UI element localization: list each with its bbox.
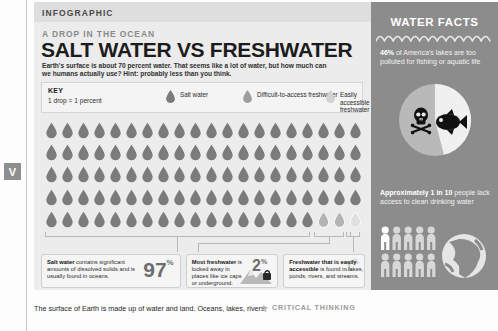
droplet-salt-water bbox=[187, 186, 203, 208]
droplet-salt-water bbox=[299, 209, 315, 231]
droplet-salt-water bbox=[59, 186, 75, 208]
droplet-salt-water bbox=[155, 142, 171, 164]
person-icon bbox=[427, 226, 435, 250]
droplet-salt-water bbox=[91, 186, 107, 208]
droplet-salt-water bbox=[75, 119, 91, 141]
droplet-icon bbox=[242, 89, 253, 104]
key-subtitle: 1 drop = 1 percent bbox=[48, 97, 102, 104]
droplet-salt-water bbox=[43, 186, 59, 208]
critical-thinking-text: CRITICAL THINKING bbox=[272, 303, 356, 312]
droplet-salt-water bbox=[123, 209, 139, 231]
key-entry-label: Salt water bbox=[180, 89, 208, 99]
wave-divider-icon bbox=[376, 32, 493, 42]
droplet-salt-water bbox=[331, 142, 347, 164]
key-entry-label: Easily accessible freshwater bbox=[340, 89, 369, 114]
infographic-label: INFOGRAPHIC bbox=[42, 8, 114, 18]
droplet-salt-water bbox=[139, 142, 155, 164]
key-legend: KEY 1 drop = 1 percent Salt waterDifficu… bbox=[41, 82, 363, 113]
person-icon bbox=[404, 253, 412, 277]
droplet-salt-water bbox=[123, 119, 139, 141]
droplet-salt-water bbox=[235, 209, 251, 231]
stat-easy-freshwater: Freshwater that is easily accessible is … bbox=[283, 254, 365, 288]
droplet-salt-water bbox=[331, 164, 347, 186]
droplet-salt-water bbox=[267, 119, 283, 141]
key-entry-salt-water: Salt water bbox=[165, 89, 208, 104]
stat-value: 97% bbox=[143, 259, 173, 280]
infographic-panel: INFOGRAPHIC A DROP IN THE OCEAN SALT WAT… bbox=[34, 2, 498, 290]
stat-bold-lead: Salt water bbox=[47, 259, 74, 265]
droplet-salt-water bbox=[107, 209, 123, 231]
fact-pollution-rest: of America's lakes are too polluted for … bbox=[380, 49, 480, 65]
droplet-salt-water bbox=[139, 119, 155, 141]
droplet-salt-water bbox=[91, 209, 107, 231]
droplet-salt-water bbox=[171, 142, 187, 164]
droplet-salt-water bbox=[187, 209, 203, 231]
droplet-salt-water bbox=[75, 164, 91, 186]
droplet-salt-water bbox=[59, 142, 75, 164]
fact-pollution-value: 46% bbox=[380, 49, 394, 56]
droplet-salt-water bbox=[187, 119, 203, 141]
infographic-page: V INFOGRAPHIC A DROP IN THE OCEAN SALT W… bbox=[0, 0, 498, 331]
droplet-salt-water bbox=[347, 186, 363, 208]
droplet-easy-freshwater bbox=[347, 209, 363, 231]
droplet-salt-water bbox=[171, 119, 187, 141]
person-icon bbox=[427, 253, 435, 277]
droplet-salt-water bbox=[75, 142, 91, 164]
droplet-salt-water bbox=[315, 142, 331, 164]
droplet-salt-water bbox=[203, 209, 219, 231]
droplet-icon bbox=[325, 89, 336, 104]
person-icon bbox=[393, 253, 401, 277]
stat-boxes: Salt water contains significant amounts … bbox=[41, 254, 365, 288]
droplet-salt-water bbox=[107, 142, 123, 164]
droplet-salt-water bbox=[347, 119, 363, 141]
droplet-salt-water bbox=[139, 164, 155, 186]
droplet-salt-water bbox=[315, 164, 331, 186]
droplet-salt-water bbox=[331, 186, 347, 208]
stat-unit: % bbox=[167, 258, 174, 267]
droplet-salt-water bbox=[203, 142, 219, 164]
stat-description: Freshwater that is easily accessible is … bbox=[289, 259, 365, 280]
droplet-salt-water bbox=[171, 164, 187, 186]
page-rule bbox=[26, 0, 27, 331]
droplet-salt-water bbox=[251, 119, 267, 141]
droplet-row bbox=[43, 186, 363, 208]
droplet-salt-water bbox=[75, 186, 91, 208]
droplet-salt-water bbox=[91, 164, 107, 186]
droplet-salt-water bbox=[203, 164, 219, 186]
droplet-salt-water bbox=[283, 142, 299, 164]
globe-icon bbox=[442, 234, 486, 278]
droplet-row bbox=[43, 141, 363, 163]
droplet-salt-water bbox=[91, 142, 107, 164]
droplet-salt-water bbox=[59, 164, 75, 186]
droplet-salt-water bbox=[75, 209, 91, 231]
droplet-salt-water bbox=[315, 119, 331, 141]
key-entry-easy-freshwater: Easily accessible freshwater bbox=[325, 89, 369, 114]
droplet-salt-water bbox=[123, 164, 139, 186]
droplet-salt-water bbox=[171, 186, 187, 208]
droplet-salt-water bbox=[139, 186, 155, 208]
droplet-salt-water bbox=[235, 164, 251, 186]
droplet-salt-water bbox=[91, 119, 107, 141]
stat-unit: % bbox=[261, 258, 267, 265]
droplet-salt-water bbox=[315, 186, 331, 208]
fact-access-text: Approximately 1 in 10 people lack access… bbox=[380, 188, 492, 207]
droplet-row bbox=[43, 209, 363, 231]
droplet-salt-water bbox=[251, 209, 267, 231]
droplet-salt-water bbox=[267, 142, 283, 164]
deck-text: Earth's surface is about 70 percent wate… bbox=[42, 62, 332, 79]
droplet-salt-water bbox=[219, 142, 235, 164]
droplet-salt-water bbox=[235, 142, 251, 164]
person-icon bbox=[416, 253, 424, 277]
droplet-salt-water bbox=[299, 142, 315, 164]
grid-brackets bbox=[43, 232, 363, 254]
droplet-salt-water bbox=[203, 119, 219, 141]
page-caption: The surface of Earth is made up of water… bbox=[34, 304, 267, 313]
droplet-salt-water bbox=[299, 186, 315, 208]
key-entry-difficult-freshwater: Difficult-to-access freshwater bbox=[242, 89, 338, 104]
droplet-icon bbox=[165, 89, 176, 104]
water-facts-title: WATER FACTS bbox=[371, 16, 498, 28]
droplet-salt-water bbox=[107, 164, 123, 186]
droplet-salt-water bbox=[283, 209, 299, 231]
droplet-salt-water bbox=[43, 209, 59, 231]
droplet-salt-water bbox=[107, 186, 123, 208]
